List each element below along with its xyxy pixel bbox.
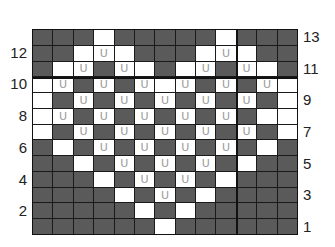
u-symbol-icon: U — [59, 111, 67, 122]
chart-cell — [74, 140, 93, 155]
chart-cell — [135, 30, 154, 45]
chart-cell — [257, 125, 276, 140]
chart-cell: U — [176, 77, 195, 92]
u-symbol-icon: U — [161, 158, 169, 169]
chart-cell: U — [135, 109, 154, 124]
chart-cell — [33, 30, 52, 45]
chart-cell — [155, 62, 174, 77]
chart-cell — [196, 109, 215, 124]
chart-cell: U — [74, 62, 93, 77]
chart-cell — [53, 93, 72, 108]
chart-cell — [135, 219, 154, 234]
chart-cell — [176, 219, 195, 234]
chart-cell: U — [237, 62, 256, 77]
row-label-left: 6 — [19, 140, 27, 155]
chart-cell — [196, 203, 215, 218]
chart-cell: U — [94, 46, 113, 61]
row-label-left: 4 — [19, 172, 27, 187]
chart-cell — [33, 140, 52, 155]
chart-cell — [216, 172, 235, 187]
chart-cell — [278, 156, 297, 171]
u-symbol-icon: U — [243, 95, 251, 106]
chart-cell — [155, 46, 174, 61]
chart-cell — [115, 46, 134, 61]
chart-cell: U — [237, 93, 256, 108]
chart-cell: U — [115, 93, 134, 108]
chart-cell — [176, 156, 195, 171]
chart-cell — [74, 156, 93, 171]
chart-cell — [155, 109, 174, 124]
chart-cell — [216, 125, 235, 140]
chart-cell — [257, 203, 276, 218]
chart-cell — [216, 219, 235, 234]
u-symbol-icon: U — [161, 95, 169, 106]
chart-cell — [278, 125, 297, 140]
chart-cell — [155, 77, 174, 92]
chart-cell — [135, 188, 154, 203]
chart-cell — [196, 30, 215, 45]
chart-cell: U — [115, 156, 134, 171]
u-symbol-icon: U — [59, 79, 67, 90]
u-symbol-icon: U — [202, 158, 210, 169]
chart-cell — [155, 172, 174, 187]
chart-cell — [135, 203, 154, 218]
chart-cell — [257, 172, 276, 187]
chart-cell: U — [115, 125, 134, 140]
chart-cell — [33, 46, 52, 61]
u-symbol-icon: U — [120, 158, 128, 169]
chart-cell: U — [216, 77, 235, 92]
chart-cell — [94, 219, 113, 234]
chart-cell — [53, 46, 72, 61]
chart-cell — [53, 203, 72, 218]
row-label-right: 5 — [303, 156, 311, 171]
u-symbol-icon: U — [243, 63, 251, 74]
chart-cell — [176, 30, 195, 45]
chart-cell — [94, 172, 113, 187]
chart-cell — [196, 188, 215, 203]
chart-cell: U — [115, 62, 134, 77]
chart-cell — [278, 109, 297, 124]
chart-cell: U — [176, 140, 195, 155]
chart-cell — [278, 30, 297, 45]
chart-cell — [33, 93, 52, 108]
chart-cell — [237, 77, 256, 92]
chart-cell — [278, 93, 297, 108]
chart-cell — [94, 188, 113, 203]
chart-cell: U — [216, 109, 235, 124]
row-label-right: 7 — [303, 124, 311, 139]
row-label-left: 2 — [19, 203, 27, 218]
chart-cell — [278, 77, 297, 92]
chart-cell — [257, 109, 276, 124]
u-symbol-icon: U — [181, 142, 189, 153]
u-symbol-icon: U — [100, 48, 108, 59]
u-symbol-icon: U — [100, 79, 108, 90]
u-symbol-icon: U — [222, 111, 230, 122]
chart-cell — [53, 219, 72, 234]
chart-cell — [33, 156, 52, 171]
u-symbol-icon: U — [202, 126, 210, 137]
chart-cell — [115, 219, 134, 234]
chart-cell — [155, 30, 174, 45]
chart-cell: U — [237, 125, 256, 140]
u-symbol-icon: U — [161, 126, 169, 137]
chart-cell: U — [135, 77, 154, 92]
u-symbol-icon: U — [120, 95, 128, 106]
u-symbol-icon: U — [161, 190, 169, 201]
chart-cell — [33, 77, 52, 92]
chart-cell — [115, 140, 134, 155]
u-symbol-icon: U — [141, 142, 149, 153]
chart-cell — [278, 140, 297, 155]
u-symbol-icon: U — [141, 174, 149, 185]
chart-cell: U — [155, 125, 174, 140]
chart-cell: U — [53, 77, 72, 92]
chart-cell — [33, 203, 52, 218]
chart-cell — [237, 109, 256, 124]
row-label-right: 13 — [303, 29, 320, 44]
chart-cell — [94, 30, 113, 45]
thick-column-divider — [236, 30, 238, 234]
thick-row-divider — [33, 77, 297, 79]
chart-cell — [237, 140, 256, 155]
chart-cell — [33, 219, 52, 234]
row-label-left: 12 — [10, 45, 27, 60]
chart-cell — [53, 156, 72, 171]
